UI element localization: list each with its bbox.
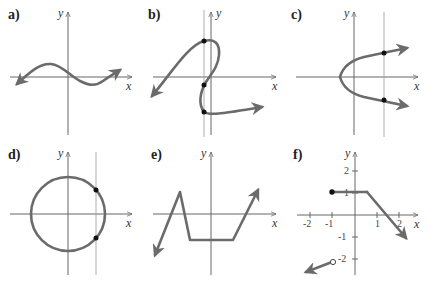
vertical-line-test-figure: a) x y b) x y c) x y d) x	[0, 0, 429, 282]
intersection-point	[202, 110, 207, 115]
x-axis-label: x	[125, 216, 132, 230]
y-axis-label: y	[57, 146, 64, 160]
panel-b: b) x y	[148, 6, 278, 137]
piecewise-curve	[155, 190, 258, 255]
y-axis-label: y	[200, 146, 207, 160]
x-tick-label: -1	[325, 218, 333, 229]
curve-upper	[340, 48, 407, 77]
y-axis-label: y	[57, 6, 64, 20]
panel-label-b: b)	[148, 7, 161, 23]
intersection-point	[382, 98, 387, 103]
x-tick-label: -2	[303, 218, 311, 229]
panel-e: e) x y	[151, 146, 278, 275]
x-axis-label: x	[413, 217, 420, 231]
x-axis-label: x	[125, 79, 132, 93]
intersection-point	[202, 83, 207, 88]
y-axis-label: y	[215, 6, 222, 20]
x-axis-label: x	[271, 216, 278, 230]
open-point	[330, 259, 335, 264]
y-tick-label: 2	[344, 165, 349, 176]
x-axis-label: x	[271, 79, 278, 93]
segment-left	[306, 262, 332, 272]
intersection-point	[202, 39, 207, 44]
panel-label-d: d)	[8, 147, 21, 163]
y-axis-label: y	[344, 146, 351, 160]
closed-point	[329, 189, 334, 194]
intersection-point	[94, 236, 99, 241]
panel-f: f) x y -2 -1 1 2 2 1 -1 -2	[293, 146, 420, 275]
panel-d: d) x y	[8, 146, 132, 275]
panel-label-c: c)	[291, 7, 302, 23]
y-axis-label: y	[343, 6, 350, 20]
x-tick-label: 1	[375, 218, 380, 229]
panel-label-a: a)	[8, 7, 20, 23]
y-tick-label: -1	[338, 231, 346, 242]
y-tick-label: -2	[338, 253, 346, 264]
panel-label-e: e)	[151, 147, 162, 163]
panel-label-f: f)	[293, 147, 303, 163]
panel-a: a) x y	[8, 6, 132, 135]
curve-lower	[340, 77, 407, 106]
intersection-point	[382, 51, 387, 56]
intersection-point	[94, 188, 99, 193]
x-axis-label: x	[413, 79, 420, 93]
panel-c: c) x y	[291, 6, 420, 137]
